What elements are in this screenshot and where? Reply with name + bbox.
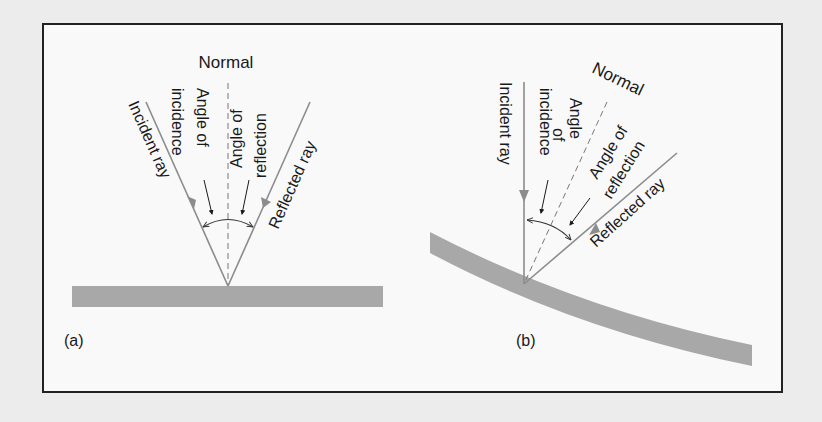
angle-of-reflection-label: Angle of reflection [228, 109, 269, 178]
svg-text:Angle of: Angle of [228, 109, 245, 168]
reflected-ray-arrow-icon [261, 197, 271, 208]
curved-mirror-surface [430, 232, 752, 366]
panel-label-b: (b) [516, 332, 536, 349]
incident-ray [146, 102, 228, 286]
incident-ray-arrow-icon [519, 190, 529, 202]
normal-label: Normal [589, 59, 647, 100]
svg-text:Angle of: Angle of [194, 88, 211, 147]
incidence-pointer-arrow [541, 180, 548, 213]
incidence-pointer-arrow [204, 180, 212, 214]
reflected-ray-label: Reflected ray [587, 175, 668, 251]
angle-of-incidence-label: Angle of incidence [169, 88, 211, 156]
panel-a: Normal Incident ray Angle of incidence A… [64, 53, 383, 349]
panel-b: Normal Incident ray Angle of incidence A… [430, 59, 752, 366]
svg-text:reflection: reflection [252, 113, 269, 178]
reflection-pointer-arrow [242, 180, 249, 214]
reflection-diagram: Normal Incident ray Angle of incidence A… [0, 0, 822, 422]
panel-label-a: (a) [64, 332, 84, 349]
svg-text:incidence: incidence [537, 88, 554, 156]
incident-ray-arrow-icon [187, 196, 196, 209]
svg-text:incidence: incidence [169, 88, 186, 156]
flat-mirror-surface [72, 286, 383, 307]
angle-of-incidence-label: Angle of incidence [537, 88, 584, 156]
normal-label: Normal [199, 53, 254, 72]
incident-ray-label: Incident ray [497, 82, 514, 165]
svg-text:Angle: Angle [567, 98, 584, 139]
reflection-pointer-arrow [570, 198, 590, 225]
